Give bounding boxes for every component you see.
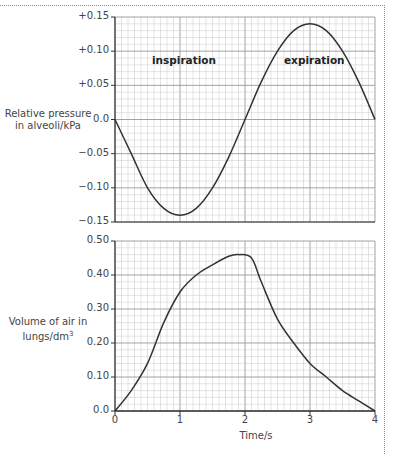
y-tick-label: 0.40 (61, 268, 109, 279)
x-tick-label: 1 (170, 414, 190, 425)
y-tick-label: 0.50 (61, 234, 109, 245)
y-tick-label: +0.10 (61, 44, 109, 55)
inspiration-label: inspiration (152, 54, 216, 66)
expiration-label: expiration (284, 54, 345, 66)
y-tick-label: 0.0 (61, 404, 109, 415)
x-tick-label: 2 (235, 414, 255, 425)
x-axis-label: Time/s (226, 430, 286, 441)
y-tick-label: −0.15 (61, 215, 109, 226)
y-tick-label: 0.30 (61, 302, 109, 313)
y-tick-label: −0.05 (61, 147, 109, 158)
bottom-ylabel-line1: Volume of air in (0, 316, 96, 328)
y-tick-label: 0.20 (61, 336, 109, 347)
x-tick-label: 0 (105, 414, 125, 425)
y-tick-label: 0.10 (61, 370, 109, 381)
x-tick-label: 3 (300, 414, 320, 425)
y-tick-label: −0.10 (61, 181, 109, 192)
y-tick-label: +0.05 (61, 78, 109, 89)
y-tick-label: 0.0 (61, 113, 109, 124)
x-tick-label: 4 (365, 414, 385, 425)
y-tick-label: +0.15 (61, 10, 109, 21)
